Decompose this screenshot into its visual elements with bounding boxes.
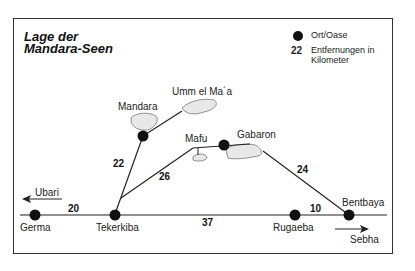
- dot-mandara-icon: [138, 131, 149, 142]
- distance-rugaeba-bentbaya: 10: [310, 203, 321, 214]
- label-rugaeba: Rugaeba: [273, 222, 314, 233]
- label-mafu: Mafu: [185, 133, 207, 144]
- road-tekerkiba-mandara: [115, 136, 143, 214]
- label-bentbaya: Bentbaya: [342, 197, 384, 208]
- road-to-mafu: [121, 148, 193, 198]
- distance-gabaron-bentbaya: 24: [297, 164, 308, 175]
- dot-rugaeba-icon: [290, 210, 301, 221]
- lake-mafu-icon: [193, 154, 207, 161]
- road-gabaron-bentbaya: [263, 151, 349, 215]
- distance-germa-tekerkiba: 20: [68, 203, 79, 214]
- lake-gabaron-icon: [226, 144, 262, 159]
- dot-bentbaya-icon: [344, 210, 355, 221]
- label-tekerkiba: Tekerkiba: [96, 222, 139, 233]
- label-umm-el-maa: Umm el Ma´a: [172, 86, 232, 97]
- distance-tekerkiba-mafu: 26: [159, 171, 170, 182]
- lake-mandara-icon: [131, 113, 157, 130]
- label-mandara: Mandara: [118, 101, 157, 112]
- distance-tekerkiba-mandara: 22: [113, 158, 124, 169]
- label-germa: Germa: [20, 222, 51, 233]
- dot-gabaron-icon: [219, 140, 230, 151]
- dot-germa-icon: [30, 210, 41, 221]
- dot-tekerkiba-icon: [110, 210, 121, 221]
- label-ubari: Ubari: [35, 187, 59, 198]
- distance-tekerkiba-rugaeba: 37: [202, 217, 213, 228]
- label-sebha: Sebha: [350, 234, 379, 245]
- map-drawing: [0, 0, 415, 271]
- label-gabaron: Gabaron: [237, 129, 276, 140]
- lake-umm-el-maa-icon: [182, 99, 216, 114]
